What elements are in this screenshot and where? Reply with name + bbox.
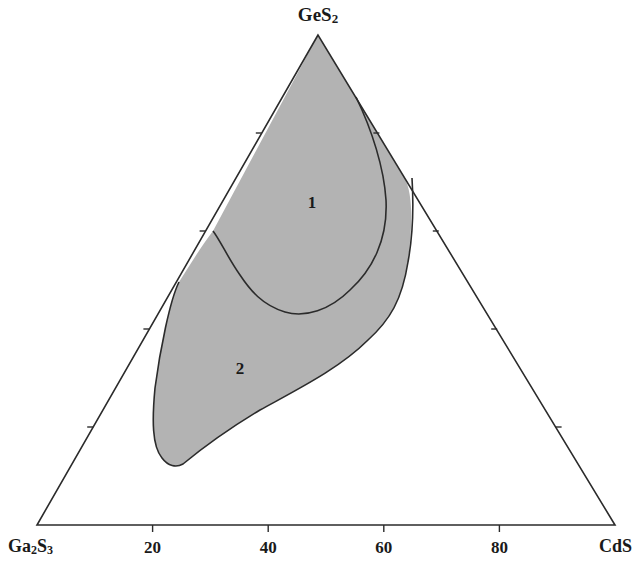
region-2-area <box>153 35 411 466</box>
tick-label-20: 20 <box>144 538 161 557</box>
vertex-label-gES2: GeS2 <box>298 4 338 26</box>
tick-label-40: 40 <box>260 538 277 557</box>
bottom-axis-ticks <box>153 525 500 532</box>
vertex-label-cds: CdS <box>599 536 632 556</box>
tick-label-80: 80 <box>491 538 508 557</box>
region-2-label: 2 <box>236 359 245 378</box>
ternary-diagram: 1 2 GeS2 Ga2S3 CdS 20 40 60 80 <box>0 0 635 563</box>
region-1-label: 1 <box>308 193 317 212</box>
tick-label-60: 60 <box>375 538 392 557</box>
vertex-label-ga2s3: Ga2S3 <box>8 536 53 557</box>
